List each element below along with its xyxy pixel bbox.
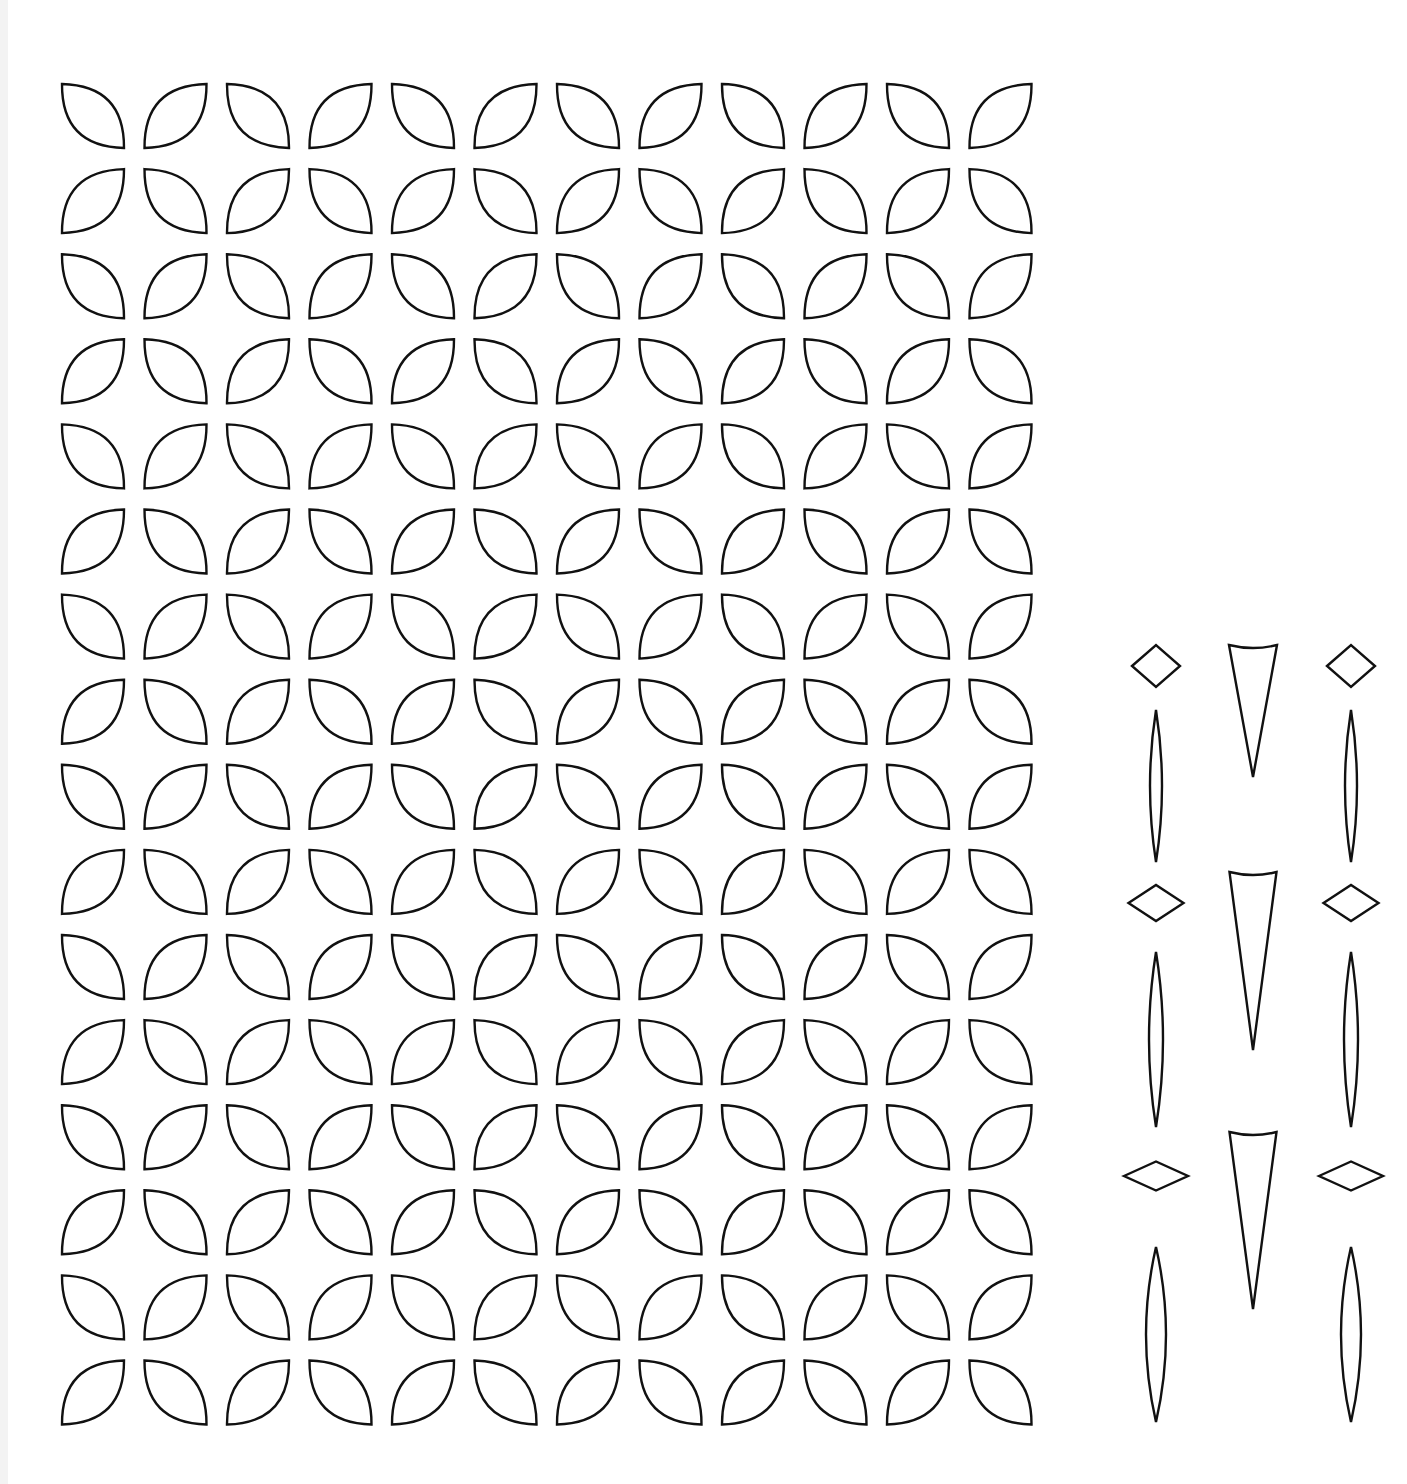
petal-leaf-backslash (227, 935, 289, 999)
petal-leaf-slash (392, 1190, 454, 1254)
petal-leaf-slash (144, 1275, 206, 1339)
petal-leaf-slash (804, 595, 866, 659)
petal-leaf-slash (392, 680, 454, 744)
petal-leaf-slash (309, 765, 371, 829)
petal-leaf-backslash (722, 254, 784, 318)
petal-leaf-slash (227, 339, 289, 403)
petal-leaf-backslash (309, 510, 371, 574)
petal-leaf-slash (887, 680, 949, 744)
petal-leaf-backslash (557, 595, 619, 659)
petal-leaf-slash (804, 1105, 866, 1169)
petal-leaf-backslash (804, 1361, 866, 1425)
ornament-cutouts (1124, 645, 1383, 1422)
petal-leaf-slash (227, 850, 289, 914)
petal-leaf-slash (639, 1105, 701, 1169)
petal-leaf-backslash (144, 1190, 206, 1254)
petal-leaf-backslash (722, 765, 784, 829)
petal-leaf-slash (722, 1190, 784, 1254)
petal-leaf-slash (804, 765, 866, 829)
petal-leaf-slash (557, 510, 619, 574)
petal-leaf-slash (309, 1275, 371, 1339)
petal-leaf-backslash (62, 935, 124, 999)
petal-leaf-slash (474, 424, 536, 488)
petal-leaf-backslash (639, 850, 701, 914)
petal-leaf-slash (144, 765, 206, 829)
petal-leaf-slash (557, 680, 619, 744)
petal-leaf-slash (309, 424, 371, 488)
petal-leaf-slash (474, 935, 536, 999)
petal-leaf-slash (969, 1275, 1031, 1339)
petal-leaf-slash (392, 510, 454, 574)
petal-leaf-slash (887, 1190, 949, 1254)
petal-leaf-backslash (639, 339, 701, 403)
petal-leaf-slash (887, 169, 949, 233)
petal-leaf-backslash (144, 1361, 206, 1425)
petal-leaf-slash (144, 254, 206, 318)
petal-leaf-slash (309, 254, 371, 318)
petal-leaf-backslash (887, 424, 949, 488)
petal-leaf-backslash (887, 84, 949, 148)
petal-leaf-backslash (557, 1105, 619, 1169)
petal-leaf-slash (144, 424, 206, 488)
petal-leaf-slash (969, 765, 1031, 829)
petal-leaf-slash (639, 935, 701, 999)
petal-leaf-backslash (557, 1275, 619, 1339)
petal-leaf-backslash (474, 850, 536, 914)
petal-leaf-backslash (144, 850, 206, 914)
petal-leaf-backslash (639, 510, 701, 574)
petal-leaf-backslash (887, 1105, 949, 1169)
pattern-sheet (0, 0, 1407, 1484)
petal-leaf-backslash (144, 339, 206, 403)
petal-leaf-backslash (62, 1275, 124, 1339)
petal-leaf-backslash (722, 595, 784, 659)
needle-shape-right (1345, 710, 1357, 862)
petal-leaf-backslash (887, 595, 949, 659)
petal-leaf-slash (969, 424, 1031, 488)
petal-leaf-backslash (722, 1275, 784, 1339)
diamond-shape-left (1132, 645, 1180, 687)
petal-leaf-slash (557, 339, 619, 403)
petal-leaf-slash (227, 1190, 289, 1254)
petal-leaf-slash (392, 850, 454, 914)
petal-leaf-backslash (804, 1190, 866, 1254)
petal-leaf-backslash (969, 1361, 1031, 1425)
needle-shape-left (1149, 952, 1163, 1127)
petal-leaf-slash (144, 595, 206, 659)
petal-leaf-backslash (474, 169, 536, 233)
petal-leaf-backslash (804, 339, 866, 403)
petal-leaf-slash (474, 84, 536, 148)
petal-leaf-slash (309, 84, 371, 148)
petal-leaf-slash (557, 169, 619, 233)
petal-leaf-slash (309, 595, 371, 659)
petal-leaf-slash (62, 850, 124, 914)
petal-leaf-slash (227, 169, 289, 233)
petal-leaf-backslash (804, 169, 866, 233)
petal-leaf-slash (969, 595, 1031, 659)
petal-leaf-backslash (392, 935, 454, 999)
petal-leaf-slash (887, 850, 949, 914)
petal-leaf-slash (392, 169, 454, 233)
petal-leaf-slash (639, 254, 701, 318)
petal-leaf-slash (804, 254, 866, 318)
petal-leaf-backslash (227, 84, 289, 148)
petal-leaf-backslash (144, 1020, 206, 1084)
petal-leaf-backslash (887, 765, 949, 829)
petal-leaf-slash (639, 765, 701, 829)
petal-leaf-backslash (392, 424, 454, 488)
petal-leaf-backslash (227, 1105, 289, 1169)
petal-leaf-slash (144, 84, 206, 148)
petal-leaf-slash (392, 1020, 454, 1084)
diamond-shape-right (1324, 885, 1379, 921)
petal-leaf-slash (392, 339, 454, 403)
petal-leaf-slash (144, 935, 206, 999)
petal-leaf-backslash (474, 510, 536, 574)
petal-leaf-slash (474, 1105, 536, 1169)
spike-triangle-shape (1230, 872, 1277, 1050)
diamond-shape-left (1124, 1162, 1188, 1191)
petal-leaf-slash (969, 254, 1031, 318)
petal-leaf-slash (557, 850, 619, 914)
needle-shape-left (1150, 710, 1162, 862)
petal-leaf-slash (804, 424, 866, 488)
petal-leaf-backslash (474, 1190, 536, 1254)
petal-leaf-backslash (969, 680, 1031, 744)
